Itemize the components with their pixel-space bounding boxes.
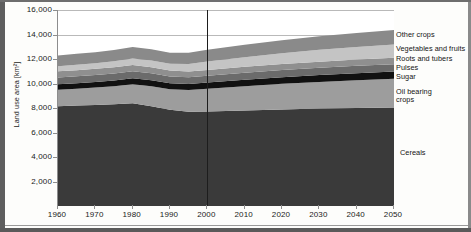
x-tick-2040: 2040: [336, 210, 376, 219]
y-tickmark-10000: [53, 84, 57, 85]
y-tick-8000: 8,000: [6, 103, 52, 112]
legend-labels: Other crops Vegetables and fruits Roots …: [396, 0, 470, 232]
y-tickmark-6000: [53, 133, 57, 134]
y-tick-12000: 12,000: [6, 54, 52, 63]
x-tick-1980: 1980: [112, 210, 152, 219]
projection-divider-line: [207, 10, 208, 206]
x-tick-2030: 2030: [298, 210, 338, 219]
y-tickmark-14000: [53, 35, 57, 36]
legend-label-sugar: Sugar: [396, 73, 471, 82]
plot-area-wrapper: [57, 10, 393, 206]
x-tickmark-1970: [94, 205, 95, 209]
scanned-page: Land use area [km²] 16,00014,00012,00010…: [0, 0, 471, 232]
plot-area: [57, 10, 394, 206]
y-axis-tick-labels: 16,00014,00012,00010,0008,0006,0004,0002…: [4, 0, 52, 232]
x-tick-2000: 2000: [186, 210, 226, 219]
x-tick-1960: 1960: [37, 210, 77, 219]
legend-label-oil-bearing-crops-line2: crops: [396, 96, 471, 105]
x-tickmark-2050: [393, 205, 394, 209]
x-tickmark-2040: [356, 205, 357, 209]
x-tickmark-2020: [281, 205, 282, 209]
x-tick-1990: 1990: [149, 210, 189, 219]
x-tickmark-1960: [57, 205, 58, 209]
legend-label-vegetables-and-fruits: Vegetables and fruits: [396, 45, 471, 54]
x-tickmark-1990: [169, 205, 170, 209]
legend-label-other-crops: Other crops: [396, 31, 471, 40]
y-tickmark-2000: [53, 182, 57, 183]
y-tick-14000: 14,000: [6, 30, 52, 39]
x-tick-1970: 1970: [74, 210, 114, 219]
stacked-area-series: [58, 10, 394, 206]
y-tick-4000: 4,000: [6, 152, 52, 161]
y-tick-16000: 16,000: [6, 5, 52, 14]
x-tick-2010: 2010: [224, 210, 264, 219]
y-tick-10000: 10,000: [6, 79, 52, 88]
y-tickmark-16000: [53, 10, 57, 11]
y-tickmark-4000: [53, 157, 57, 158]
x-tickmark-2010: [244, 205, 245, 209]
x-tickmark-2000: [206, 205, 207, 209]
y-tick-6000: 6,000: [6, 128, 52, 137]
area-band-cereals: [58, 103, 394, 206]
y-tickmark-12000: [53, 59, 57, 60]
x-tick-2020: 2020: [261, 210, 301, 219]
y-tickmark-8000: [53, 108, 57, 109]
x-tickmark-1980: [132, 205, 133, 209]
x-tickmark-2030: [318, 205, 319, 209]
y-tick-2000: 2,000: [6, 177, 52, 186]
legend-label-cereals: Cereals: [400, 148, 425, 157]
